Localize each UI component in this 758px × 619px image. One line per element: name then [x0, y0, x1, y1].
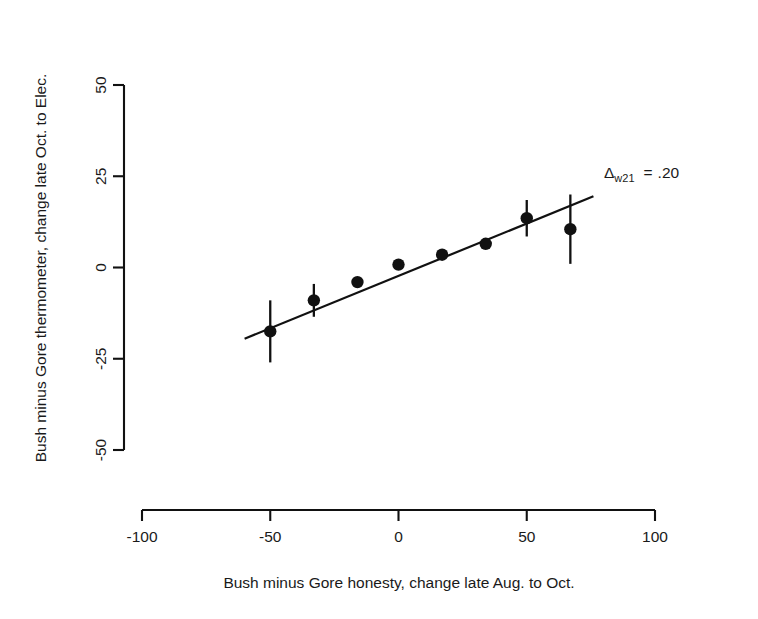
annotations-group: Δw21=.20 [604, 164, 680, 184]
data-point [392, 258, 404, 270]
x-tick-label: 100 [642, 528, 668, 545]
y-axis-tick-labels: -50-2502550 [92, 76, 109, 461]
x-tick-label: -50 [259, 528, 282, 545]
x-axis: -100-50050100 Bush minus Gore honesty, c… [126, 510, 668, 591]
data-point [264, 325, 276, 337]
scatter-plot: -100-50050100 Bush minus Gore honesty, c… [0, 0, 758, 619]
y-axis-title: Bush minus Gore thermometer, change late… [32, 74, 49, 463]
data-point [436, 249, 448, 261]
y-tick-label: -50 [92, 438, 109, 461]
x-tick-label: 0 [394, 528, 403, 545]
delta-w21-annotation: Δw21=.20 [604, 164, 680, 184]
delta-symbol: Δ [604, 164, 614, 181]
data-point [521, 212, 533, 224]
x-axis-ticks [142, 510, 655, 521]
delta-value: .20 [658, 164, 680, 181]
chart-figure: -100-50050100 Bush minus Gore honesty, c… [0, 0, 758, 619]
data-point [480, 238, 492, 250]
x-axis-tick-labels: -100-50050100 [126, 528, 668, 545]
x-axis-title: Bush minus Gore honesty, change late Aug… [223, 574, 574, 591]
x-tick-label: -100 [126, 528, 157, 545]
y-tick-label: 25 [92, 168, 109, 185]
y-axis-ticks [113, 85, 124, 450]
x-tick-label: 50 [518, 528, 536, 545]
data-point [308, 294, 320, 306]
y-tick-label: 50 [92, 76, 109, 94]
regression-line [245, 196, 594, 338]
data-point [351, 276, 363, 288]
data-points-group [264, 212, 577, 338]
equals-sign: = [644, 164, 653, 181]
y-axis: -50-2502550 Bush minus Gore thermometer,… [32, 74, 124, 463]
delta-subscript: w21 [613, 172, 634, 184]
y-tick-label: 0 [92, 263, 109, 272]
y-tick-label: -25 [92, 348, 109, 370]
trend-line-group [245, 196, 594, 338]
data-point [564, 223, 576, 235]
